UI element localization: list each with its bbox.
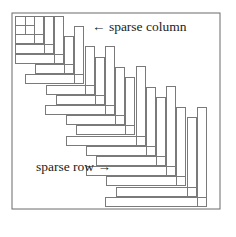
row-bar <box>16 45 54 54</box>
row-bar <box>106 198 207 207</box>
row-bar <box>117 188 197 197</box>
column-bar <box>45 17 54 54</box>
column-bar <box>106 47 115 115</box>
column-bar <box>167 87 176 176</box>
column-bar <box>55 17 64 64</box>
row-bar <box>107 177 186 186</box>
column-bar <box>35 17 44 44</box>
row-bar <box>36 65 74 74</box>
row-bar <box>16 55 64 64</box>
row-bar <box>46 106 115 115</box>
l-shaped-blocks <box>16 17 207 207</box>
dense-cell <box>26 26 35 35</box>
arrowhead-matrix-diagram <box>0 0 236 237</box>
sparse-column-label: ← sparse column <box>92 20 186 34</box>
sparse-row-label: sparse row → <box>36 160 111 174</box>
column-bar <box>198 108 207 207</box>
column-bar <box>86 47 95 95</box>
dense-cell <box>16 26 26 35</box>
row-bar <box>47 86 95 95</box>
column-bar <box>188 118 197 197</box>
column-bar <box>65 37 74 74</box>
column-bar <box>147 88 156 156</box>
row-bar <box>57 96 105 105</box>
dense-cell <box>16 17 26 26</box>
dense-cell <box>26 17 35 26</box>
row-bar <box>87 147 156 156</box>
column-bar <box>177 108 186 186</box>
column-bar <box>96 58 105 105</box>
column-bar <box>157 98 166 166</box>
row-bar <box>67 137 146 146</box>
row-bar <box>16 35 44 44</box>
column-bar <box>137 67 146 146</box>
